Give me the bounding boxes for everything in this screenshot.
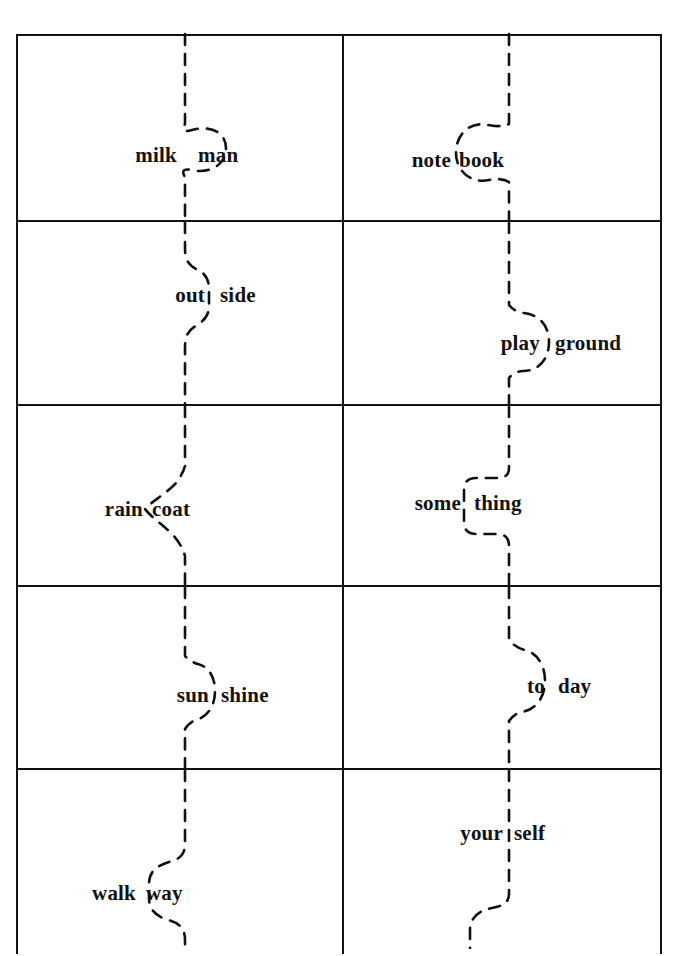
- grid-row-1: [18, 36, 660, 222]
- word-left-playground: play: [501, 331, 540, 356]
- word-left-outside: out: [175, 283, 205, 308]
- word-right-today: day: [558, 674, 591, 699]
- word-right-milkman: man: [198, 143, 238, 168]
- word-right-playground: ground: [555, 331, 621, 356]
- word-left-walkway: walk: [92, 881, 136, 906]
- column-divider: [342, 36, 344, 954]
- word-right-sunshine: shine: [221, 683, 269, 708]
- grid-frame: [16, 34, 662, 954]
- word-left-notebook: note: [412, 148, 451, 173]
- word-right-yourself: self: [514, 821, 545, 846]
- word-right-something: thing: [474, 491, 522, 516]
- word-right-walkway: way: [146, 881, 183, 906]
- word-right-notebook: book: [459, 148, 504, 173]
- word-left-yourself: your: [460, 821, 503, 846]
- word-left-milkman: milk: [135, 143, 177, 168]
- grid-row-5: [18, 770, 660, 956]
- word-right-raincoat: coat: [152, 497, 190, 522]
- word-right-outside: side: [220, 283, 256, 308]
- word-left-sunshine: sun: [177, 683, 209, 708]
- grid-row-2: [18, 222, 660, 406]
- word-left-raincoat: rain: [105, 497, 143, 522]
- word-left-something: some: [415, 491, 461, 516]
- word-left-today: to: [527, 674, 545, 699]
